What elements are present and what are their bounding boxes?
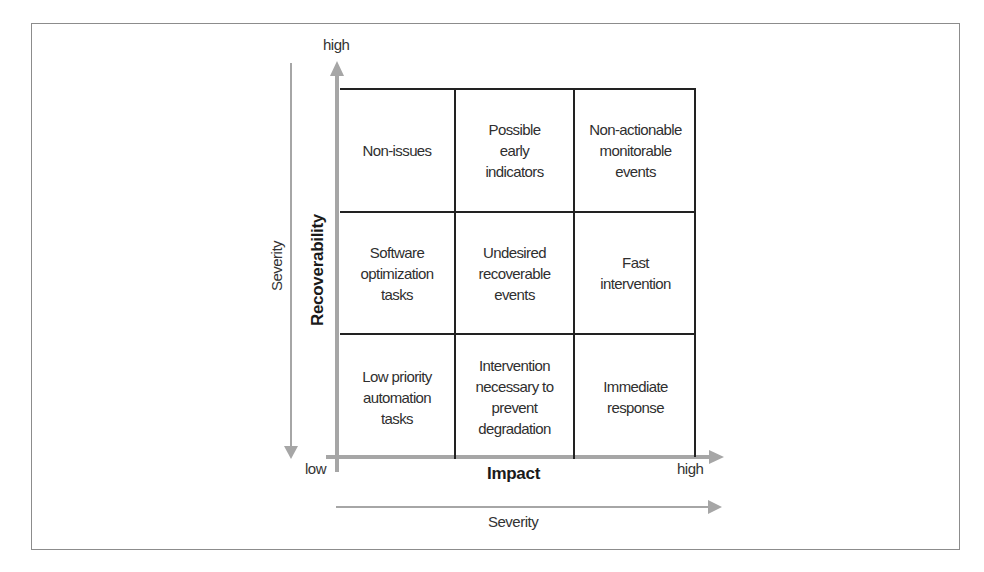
cell-low-recoverability-low-impact: Low priority automation tasks (340, 335, 456, 459)
cell-high-recoverability-high-impact: Non-actionable monitorable events (575, 90, 696, 213)
severity-vertical-arrow (284, 63, 298, 459)
matrix-grid: Non-issues Possible early indicators Non… (340, 88, 696, 457)
severity-horizontal-label: Severity (488, 513, 538, 530)
cell-high-recoverability-medium-impact: Possible early indicators (456, 90, 575, 213)
cell-low-recoverability-high-impact: Immediate response (575, 335, 696, 459)
x-axis-title: Impact (487, 464, 540, 484)
severity-vertical-label: Severity (268, 241, 285, 291)
y-axis-title: Recoverability (308, 214, 328, 326)
cell-high-recoverability-low-impact: Non-issues (340, 90, 456, 213)
y-axis-high-label: high (323, 36, 349, 53)
cell-medium-recoverability-low-impact: Software optimization tasks (340, 213, 456, 335)
severity-horizontal-arrow (336, 500, 722, 514)
x-axis-high-label: high (677, 460, 703, 477)
cell-medium-recoverability-high-impact: Fast intervention (575, 213, 696, 335)
cell-low-recoverability-medium-impact: Intervention necessary to prevent degrad… (456, 335, 575, 459)
cell-medium-recoverability-medium-impact: Undesired recoverable events (456, 213, 575, 335)
x-axis-low-label: low (305, 460, 326, 477)
